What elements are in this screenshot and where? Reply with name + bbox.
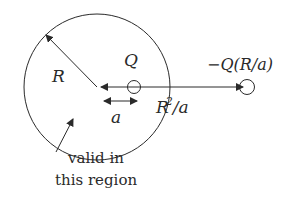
radius-label: R bbox=[51, 66, 65, 86]
image-distance-label: R2/a bbox=[155, 95, 189, 117]
image-charge-label-text: −Q(R/a) bbox=[207, 55, 273, 74]
image-charge-label: −Q(R/a) bbox=[207, 55, 273, 74]
image-distance-rest: /a bbox=[171, 97, 189, 117]
charge-q-label: Q bbox=[124, 50, 138, 70]
valid-region-line2: this region bbox=[55, 171, 137, 189]
image-distance-sup: 2 bbox=[165, 95, 173, 108]
valid-region-pointer-arrow bbox=[56, 119, 73, 152]
valid-region-line1: valid in bbox=[67, 149, 124, 167]
image-charge-diagram: R Q −Q(R/a) a R2/a valid in this region bbox=[0, 0, 290, 209]
distance-a-label: a bbox=[111, 107, 121, 127]
